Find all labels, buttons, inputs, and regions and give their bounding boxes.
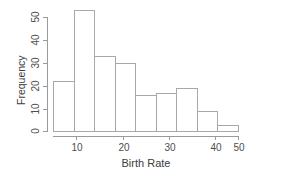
y-axis-title: Frequency (16, 55, 27, 105)
x-tick-40 (215, 136, 216, 140)
histogram-chart: 0 10 20 30 40 50 Frequency 10 20 30 40 5… (0, 0, 286, 175)
y-tick-label-50: 50 (31, 7, 41, 27)
y-tick-label-30: 30 (31, 53, 41, 73)
x-tick-10 (76, 136, 77, 140)
histogram-bar (217, 125, 239, 132)
histogram-bar (115, 63, 137, 132)
y-tick-label-20: 20 (31, 76, 41, 96)
histogram-bar (53, 81, 75, 132)
y-tick-label-40: 40 (31, 30, 41, 50)
y-axis-line (47, 17, 48, 132)
histogram-bar (176, 88, 198, 132)
y-tick-label-0: 0 (31, 121, 41, 141)
x-tick-label-40: 40 (206, 143, 226, 153)
histogram-bar (197, 111, 219, 132)
y-tick-label-10: 10 (31, 99, 41, 119)
histogram-bar (94, 56, 116, 132)
y-tick-20 (43, 86, 47, 87)
x-tick-label-10: 10 (67, 143, 87, 153)
histogram-bar (156, 93, 178, 132)
y-tick-30 (43, 63, 47, 64)
y-tick-40 (43, 40, 47, 41)
y-tick-50 (43, 17, 47, 18)
x-tick-20 (123, 136, 124, 140)
x-tick-label-50: 50 (229, 143, 249, 153)
x-axis-line (53, 136, 239, 137)
y-tick-10 (43, 109, 47, 110)
x-tick-label-30: 30 (160, 143, 180, 153)
histogram-bar (135, 95, 157, 132)
x-tick-50 (238, 136, 239, 140)
y-tick-0 (43, 131, 47, 132)
x-tick-30 (169, 136, 170, 140)
x-tick-label-20: 20 (114, 143, 134, 153)
histogram-bar (74, 10, 96, 132)
x-axis-title: Birth Rate (96, 158, 196, 169)
